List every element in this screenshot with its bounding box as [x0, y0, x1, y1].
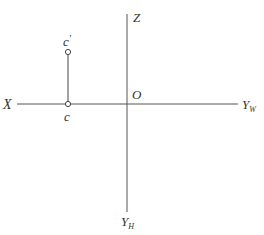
- point-c: [65, 101, 70, 106]
- point-c-label: c: [64, 109, 70, 124]
- x-axis-label: X: [2, 97, 12, 112]
- yw-axis-label: YW: [242, 97, 257, 114]
- yh-axis-label: YH: [121, 214, 135, 231]
- projection-diagram: X Z O YW YH c′ c: [0, 0, 264, 235]
- point-c-prime: [65, 49, 70, 54]
- z-axis-label: Z: [133, 10, 141, 25]
- point-c-prime-label: c′: [63, 33, 72, 49]
- origin-label: O: [132, 87, 142, 102]
